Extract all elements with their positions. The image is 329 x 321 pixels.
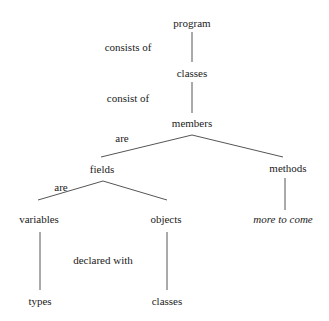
edge-label: consists of [105, 41, 152, 53]
edge-label: are [115, 132, 128, 144]
node-methods: methods [269, 162, 306, 174]
node-fields: fields [90, 163, 114, 175]
node-variables: variables [19, 213, 59, 225]
edge-line [38, 181, 103, 200]
edge-label: consist of [107, 92, 149, 104]
node-members: members [172, 117, 212, 129]
edges-layer [0, 0, 329, 321]
edge-label: declared with [73, 254, 133, 266]
node-classes2: classes [152, 295, 183, 307]
node-more: more to come [253, 213, 312, 225]
node-program: program [173, 17, 210, 29]
edge-line [192, 135, 283, 157]
node-types: types [28, 295, 51, 307]
node-objects: objects [150, 213, 181, 225]
edge-label: are [54, 181, 67, 193]
edge-line [103, 181, 167, 200]
node-classes1: classes [177, 67, 208, 79]
concept-tree-diagram: programclassesmembersfieldsmethodsvariab… [0, 0, 329, 321]
